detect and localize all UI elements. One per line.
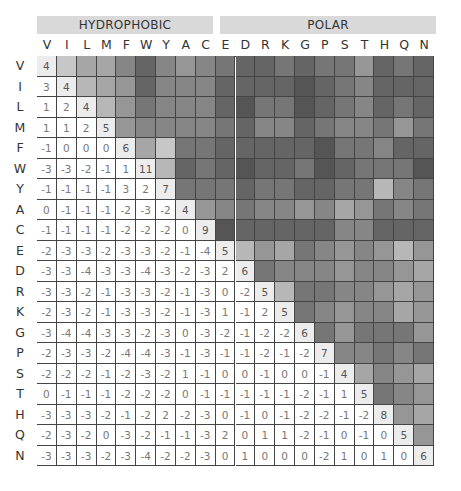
cell-W-A	[176, 159, 196, 180]
cell-H-R: 0	[255, 405, 275, 426]
cell-G-G: 6	[295, 323, 315, 344]
cell-S-M: -1	[97, 364, 117, 385]
cell-R-R: 5	[255, 282, 275, 303]
cell-L-P	[315, 97, 335, 118]
row-label-E: E	[10, 241, 30, 262]
cell-D-G	[295, 261, 315, 282]
cell-A-G	[295, 200, 315, 221]
cell-A-M: -1	[97, 200, 117, 221]
row-label-D: D	[10, 261, 30, 282]
cell-S-C: -1	[196, 364, 216, 385]
cell-Y-H	[374, 179, 394, 200]
cell-D-T	[355, 261, 375, 282]
row-label-V: V	[10, 56, 30, 77]
cell-D-R	[255, 261, 275, 282]
column-label-G: G	[295, 37, 315, 53]
cell-G-H	[374, 323, 394, 344]
cell-W-G	[295, 159, 315, 180]
cell-C-N	[414, 220, 434, 241]
cell-M-S	[335, 118, 355, 139]
cell-A-T	[355, 200, 375, 221]
cell-R-K	[275, 282, 295, 303]
cell-V-R	[255, 56, 275, 77]
cell-R-Y: -2	[156, 282, 176, 303]
cell-W-Y	[156, 159, 176, 180]
cell-V-Q	[394, 56, 414, 77]
cell-S-T	[355, 364, 375, 385]
cell-L-A	[176, 97, 196, 118]
cell-A-E	[216, 200, 236, 221]
cell-Y-L: -1	[77, 179, 97, 200]
cell-P-Q	[394, 343, 414, 364]
column-label-K: K	[275, 37, 295, 53]
cell-T-V: 0	[37, 384, 57, 405]
cell-S-Y: -2	[156, 364, 176, 385]
cell-H-P: -2	[315, 405, 335, 426]
column-label-C: C	[196, 37, 216, 53]
cell-A-R	[255, 200, 275, 221]
column-label-Y: Y	[156, 37, 176, 53]
cell-I-V: 3	[37, 77, 57, 98]
cell-K-M: -1	[97, 302, 117, 323]
cell-T-D: -1	[236, 384, 256, 405]
cell-A-H	[374, 200, 394, 221]
cell-N-I: -3	[57, 446, 77, 467]
cell-C-S	[335, 220, 355, 241]
cell-K-C: -3	[196, 302, 216, 323]
cell-A-A: 4	[176, 200, 196, 221]
cell-C-T	[355, 220, 375, 241]
cell-Q-M: 0	[97, 425, 117, 446]
cell-H-T: -2	[355, 405, 375, 426]
row-label-K: K	[10, 302, 30, 323]
cell-A-Y: -2	[156, 200, 176, 221]
cell-M-V: 1	[37, 118, 57, 139]
cell-I-G	[295, 77, 315, 98]
cell-H-V: -3	[37, 405, 57, 426]
cell-H-L: -3	[77, 405, 97, 426]
cell-S-S: 4	[335, 364, 355, 385]
cell-P-M: -2	[97, 343, 117, 364]
cell-Q-K: 1	[275, 425, 295, 446]
cell-M-H	[374, 118, 394, 139]
cell-H-H: 8	[374, 405, 394, 426]
cell-F-H	[374, 138, 394, 159]
cell-C-M: -1	[97, 220, 117, 241]
cell-S-K: 0	[275, 364, 295, 385]
row-label-F: F	[10, 138, 30, 159]
cell-D-E: 2	[216, 261, 236, 282]
cell-V-N	[414, 56, 434, 77]
cell-V-L	[77, 56, 97, 77]
column-label-D: D	[236, 37, 256, 53]
cell-F-D	[236, 138, 256, 159]
cell-Q-R: 1	[255, 425, 275, 446]
cell-A-W: -3	[136, 200, 156, 221]
cell-C-E	[216, 220, 236, 241]
cell-N-D: 1	[236, 446, 256, 467]
cell-K-R: 2	[255, 302, 275, 323]
cell-E-G	[295, 241, 315, 262]
cell-H-W: -2	[136, 405, 156, 426]
cell-G-Y: -3	[156, 323, 176, 344]
cell-N-A: -2	[176, 446, 196, 467]
cell-E-V: -2	[37, 241, 57, 262]
row-label-Q: Q	[10, 425, 30, 446]
cell-S-A: 1	[176, 364, 196, 385]
row-label-Y: Y	[10, 179, 30, 200]
cell-I-R	[255, 77, 275, 98]
cell-F-K	[275, 138, 295, 159]
cell-E-S	[335, 241, 355, 262]
cell-G-S	[335, 323, 355, 344]
cell-E-N	[414, 241, 434, 262]
cell-C-K	[275, 220, 295, 241]
cell-E-M: -2	[97, 241, 117, 262]
cell-L-M	[97, 97, 117, 118]
cell-C-A: 0	[176, 220, 196, 241]
cell-F-T	[355, 138, 375, 159]
cell-A-F: -2	[116, 200, 136, 221]
cell-R-S	[335, 282, 355, 303]
cell-Q-D: 0	[236, 425, 256, 446]
cell-Y-N	[414, 179, 434, 200]
cell-E-C: -4	[196, 241, 216, 262]
cell-P-A: -1	[176, 343, 196, 364]
cell-H-E: 0	[216, 405, 236, 426]
